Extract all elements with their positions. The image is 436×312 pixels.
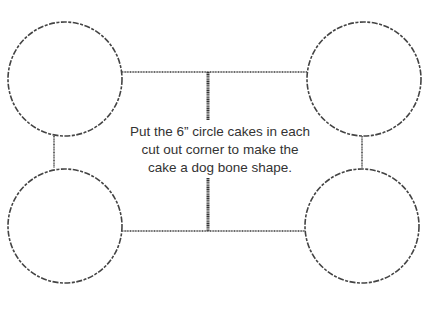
- instruction-line-1: Put the 6” circle cakes in each: [110, 123, 330, 141]
- instruction-line-3: cake a dog bone shape.: [110, 159, 330, 177]
- circle-cake-bottom-left: [8, 169, 122, 283]
- instruction-text: Put the 6” circle cakes in each cut out …: [110, 123, 330, 177]
- instruction-line-2: cut out corner to make the: [110, 141, 330, 159]
- circle-cake-top-left: [8, 22, 122, 136]
- circle-cake-bottom-right: [305, 169, 419, 283]
- dog-bone-diagram: Put the 6” circle cakes in each cut out …: [0, 0, 436, 312]
- circle-cake-top-right: [307, 22, 421, 136]
